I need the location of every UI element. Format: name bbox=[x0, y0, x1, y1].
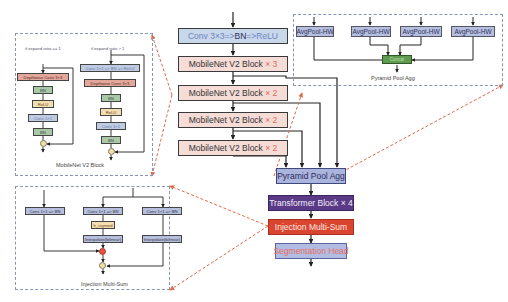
avgpool-1: AvgPool-HW bbox=[296, 26, 334, 37]
left-conv1x1: Conv 1×1 bbox=[28, 114, 58, 122]
block-multiplier: × 2 bbox=[265, 115, 277, 125]
concat-label: Concat bbox=[390, 57, 404, 62]
mobilenet-block-4: MobileNet V2 Block × 2 bbox=[178, 140, 288, 156]
mobilenet-block-3: MobileNet V2 Block × 2 bbox=[178, 112, 288, 128]
left-depthwise-conv: Depthwise Conv 3×3 bbox=[17, 73, 69, 81]
stem-conv-block: Conv 3×3 => BN => ReLU bbox=[178, 28, 288, 44]
inj-branch-2-conv: Conv 1×1 => BN bbox=[83, 207, 123, 215]
block-label: MobileNet V2 Block bbox=[189, 88, 263, 98]
block-multiplier: × 2 bbox=[265, 88, 277, 98]
layer-label: Interpolate(bilinear) bbox=[85, 237, 121, 242]
avgpool-label: AvgPool-HW bbox=[402, 28, 439, 35]
layer-label: Conv 1×1 bbox=[102, 124, 120, 129]
right-bn-1: BN bbox=[101, 94, 121, 102]
right-add-icon bbox=[108, 148, 115, 155]
ppa-panel-caption: Pyramid Pool Agg bbox=[371, 75, 415, 81]
layer-label: Conv 1×1 => BN bbox=[146, 209, 177, 214]
segmentation-head-block: Segmentation Head bbox=[275, 243, 347, 259]
block-multiplier: × 2 bbox=[265, 143, 277, 153]
avgpool-label: AvgPool-HW bbox=[296, 28, 333, 35]
right-conv1x1: Conv 1×1 bbox=[96, 122, 126, 130]
left-bn-1: BN bbox=[33, 86, 53, 94]
avgpool-4: AvgPool-HW bbox=[451, 26, 495, 37]
transformer-label: Transformer Block bbox=[269, 198, 338, 208]
stem-arrow-2: => bbox=[246, 31, 256, 41]
right-bn-2: BN bbox=[101, 136, 121, 144]
layer-label: Interpolate(bilinear) bbox=[144, 237, 180, 242]
layer-label: BN bbox=[40, 130, 46, 135]
layer-label: Conv 1×1 => BN => ReLU bbox=[85, 66, 134, 71]
layer-label: BN bbox=[40, 88, 46, 93]
block-label: MobileNet V2 Block bbox=[189, 115, 263, 125]
stem-arrow-1: => bbox=[225, 31, 235, 41]
mobilenet-block-2: MobileNet V2 Block × 2 bbox=[178, 85, 288, 101]
ppa-label: Pyramid Pool Agg bbox=[277, 171, 345, 181]
seg-head-label: Segmentation Head bbox=[273, 246, 348, 256]
transformer-multiplier: × 4 bbox=[341, 198, 353, 208]
block-label: MobileNet V2 Block bbox=[189, 143, 263, 153]
block-label: MobileNet V2 Block bbox=[189, 59, 263, 69]
inj-branch-2-interp: Interpolate(bilinear) bbox=[83, 235, 123, 243]
injection-multi-sum-block: Injection Multi-Sum bbox=[268, 219, 354, 235]
layer-label: ReLU bbox=[106, 110, 117, 115]
layer-label: ReLU bbox=[38, 102, 49, 107]
inj-branch-2-hsigmoid: h_sigmoid bbox=[91, 221, 115, 229]
layer-label: Conv 1×1 => BN bbox=[29, 209, 60, 214]
left-add-icon bbox=[40, 140, 47, 147]
layer-label: Depthwise Conv 3×3 bbox=[24, 75, 63, 80]
transformer-block: Transformer Block × 4 bbox=[268, 195, 354, 211]
injection-label: Injection Multi-Sum bbox=[275, 222, 347, 232]
avgpool-3: AvgPool-HW bbox=[400, 26, 442, 37]
concat-block: Concat bbox=[382, 55, 412, 64]
layer-label: h_sigmoid bbox=[93, 223, 112, 228]
layer-label: BN bbox=[108, 96, 114, 101]
layer-label: Conv 1×1 bbox=[34, 116, 52, 121]
layer-label: Conv 1×1 => BN bbox=[87, 209, 118, 214]
right-relu: ReLU bbox=[100, 108, 122, 116]
block-multiplier: × 3 bbox=[265, 59, 277, 69]
stem-relu-label: ReLU bbox=[256, 31, 278, 41]
right-depthwise-conv: Depthwise Conv 3×3 bbox=[84, 79, 136, 87]
avgpool-2: AvgPool-HW bbox=[351, 26, 391, 37]
mobilenet-block-1: MobileNet V2 Block × 3 bbox=[178, 56, 288, 72]
avgpool-label: AvgPool-HW bbox=[454, 28, 491, 35]
stem-bn-label: BN bbox=[235, 31, 247, 41]
add-icon bbox=[99, 262, 106, 269]
avgpool-label: AvgPool-HW bbox=[352, 28, 389, 35]
pyramid-pool-agg-block: Pyramid Pool Agg bbox=[276, 168, 346, 184]
left-relu: ReLU bbox=[32, 100, 54, 108]
right-conv-bn-relu: Conv 1×1 => BN => ReLU bbox=[80, 64, 140, 72]
expand-ratio-gt1-label: if expand ratio > 1 bbox=[91, 46, 124, 51]
inj-branch-3-conv: Conv 1×1 => BN bbox=[142, 207, 182, 215]
inj-branch-1-conv: Conv 1×1 => BN bbox=[25, 207, 65, 215]
injection-panel-caption: Injection Multi-Sum bbox=[81, 281, 128, 287]
inj-branch-3-interp: Interpolate(bilinear) bbox=[142, 235, 182, 243]
stem-conv-label: Conv 3×3 bbox=[188, 31, 225, 41]
mbv2-panel-caption: MobileNet V2 Block bbox=[56, 162, 104, 168]
layer-label: BN bbox=[108, 138, 114, 143]
layer-label: Depthwise Conv 3×3 bbox=[91, 81, 130, 86]
expand-ratio-1-label: if expand ratio == 1 bbox=[25, 46, 61, 51]
multiply-icon bbox=[99, 248, 106, 255]
left-bn-2: BN bbox=[33, 128, 53, 136]
